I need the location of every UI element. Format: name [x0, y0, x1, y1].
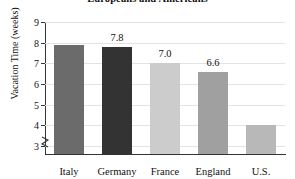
- bar[interactable]: [150, 63, 180, 154]
- x-axis-line: [45, 154, 286, 155]
- chart-figure: Europeans and Americans Vacation Time (w…: [0, 0, 295, 179]
- bar-slot: [45, 22, 93, 154]
- plot-area: 3456789 7.87.06.6: [45, 22, 285, 154]
- y-axis-tick-label: 6: [34, 78, 39, 89]
- x-axis-tick-label: England: [196, 166, 231, 177]
- bar[interactable]: [54, 45, 84, 154]
- bar[interactable]: [246, 125, 276, 154]
- chart-title-line: Europeans and Americans: [0, 0, 295, 4]
- chart-title: Europeans and Americans: [0, 0, 295, 4]
- bar-slot: 6.6: [189, 22, 237, 154]
- x-axis-tick-label: U.S.: [252, 166, 271, 177]
- bar-slot: [237, 22, 285, 154]
- bar[interactable]: [102, 47, 132, 154]
- y-axis-tick-label: 7: [34, 58, 39, 69]
- y-axis-tick-label: 3: [34, 140, 39, 151]
- y-axis-label: Vacation Time (weeks): [9, 0, 20, 114]
- bar-value-label: 6.6: [206, 57, 219, 68]
- bar-value-label: 7.0: [158, 48, 171, 59]
- x-axis-tick-label: Italy: [59, 166, 78, 177]
- y-axis-tick-label: 8: [34, 37, 39, 48]
- bar-value-label: 7.8: [110, 32, 123, 43]
- bar[interactable]: [198, 72, 228, 155]
- bar-series: 7.87.06.6: [45, 22, 285, 154]
- bar-slot: 7.8: [93, 22, 141, 154]
- x-axis-tick-label: Germany: [97, 166, 136, 177]
- bar-slot: 7.0: [141, 22, 189, 154]
- x-axis-labels: ItalyGermanyFranceEnglandU.S.: [45, 157, 285, 177]
- y-axis-tick-label: 5: [34, 99, 39, 110]
- x-axis-tick-label: France: [151, 166, 180, 177]
- y-axis-tick-label: 4: [34, 120, 39, 131]
- y-axis-tick-label: 9: [34, 17, 39, 28]
